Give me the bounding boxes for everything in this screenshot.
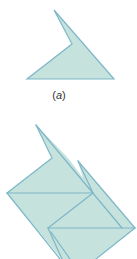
caption-close-paren: ) [62, 89, 66, 101]
shape-a-dart-tile [27, 10, 114, 79]
dart-tiling [7, 125, 135, 259]
figure-caption-a: (a) [0, 89, 118, 101]
figure-canvas [0, 0, 137, 259]
